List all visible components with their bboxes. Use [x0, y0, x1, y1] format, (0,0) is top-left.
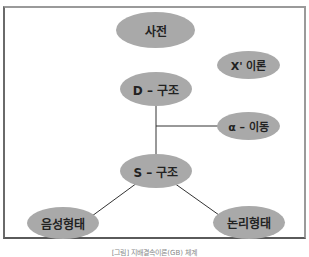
node-alpha-label: α – 이동 — [228, 118, 269, 134]
node-alpha-movement: α – 이동 — [217, 112, 280, 140]
node-s-structure-label: S – 구조 — [134, 163, 179, 180]
node-lexicon-label: 사전 — [145, 22, 167, 39]
node-logical-label: 논리형태 — [227, 214, 271, 231]
node-s-structure: S – 구조 — [120, 154, 192, 188]
node-d-structure: D – 구조 — [120, 72, 192, 106]
node-phonetic-form: 음성형태 — [27, 207, 99, 239]
node-lexicon: 사전 — [116, 12, 195, 48]
node-logical-form: 논리형태 — [213, 206, 285, 239]
node-phonetic-label: 음성형태 — [41, 215, 85, 232]
line-s-to-logical — [174, 183, 219, 215]
node-d-structure-label: D – 구조 — [133, 81, 179, 98]
node-xbar-theory: X' 이론 — [217, 51, 280, 79]
line-s-to-phonetic — [92, 183, 137, 216]
node-xbar-label: X' 이론 — [231, 57, 267, 73]
figure-caption: [그림] 지배결속이론(GB) 체계 — [0, 247, 309, 257]
